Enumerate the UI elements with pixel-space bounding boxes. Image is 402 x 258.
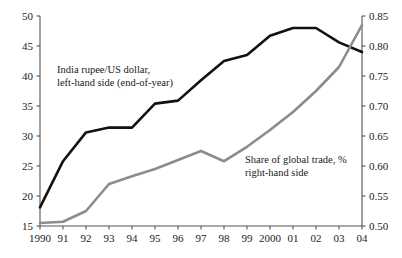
left-axis-tick-label: 40 <box>22 70 34 82</box>
x-axis-tick-label: 96 <box>173 232 185 244</box>
x-axis-tick-label: 95 <box>150 232 162 244</box>
chart-container: 1520253035404550 0.500.550.600.650.700.7… <box>0 0 402 258</box>
line-chart: 1520253035404550 0.500.550.600.650.700.7… <box>0 0 402 258</box>
x-axis-tick-label: 01 <box>288 232 299 244</box>
left-axis-tick-label: 45 <box>22 40 34 52</box>
x-axis-tick-label: 1990 <box>29 232 52 244</box>
x-axis-tick-label: 03 <box>334 232 346 244</box>
x-axis-tick-label: 93 <box>104 232 116 244</box>
left-axis-tick-label: 20 <box>22 190 34 202</box>
right-axis-tick-label: 0.75 <box>369 70 389 82</box>
chart-background <box>0 0 402 258</box>
trade-share-annotation: right-hand side <box>245 167 309 178</box>
x-axis-tick-label: 94 <box>127 232 139 244</box>
x-axis-tick-label: 2000 <box>259 232 282 244</box>
x-axis-tick-label: 99 <box>242 232 254 244</box>
rupee-series-annotation: India rupee/US dollar, <box>57 64 150 75</box>
trade-share-annotation: Share of global trade, % <box>245 154 347 165</box>
right-axis-tick-label: 0.70 <box>369 100 389 112</box>
right-axis-tick-label: 0.60 <box>369 160 389 172</box>
left-axis-tick-label: 25 <box>22 160 34 172</box>
left-axis-tick-label: 15 <box>22 220 34 232</box>
x-axis-tick-label: 04 <box>357 232 369 244</box>
right-axis-tick-label: 0.85 <box>369 10 389 22</box>
right-axis-tick-label: 0.65 <box>369 130 389 142</box>
left-axis-tick-label: 30 <box>22 130 34 142</box>
x-axis-tick-label: 91 <box>58 232 69 244</box>
left-axis-tick-label: 50 <box>22 10 34 22</box>
right-axis-tick-label: 0.50 <box>369 220 389 232</box>
x-axis-tick-label: 02 <box>311 232 322 244</box>
x-axis-tick-label: 98 <box>219 232 231 244</box>
x-axis-tick-label: 92 <box>81 232 92 244</box>
right-axis-tick-label: 0.80 <box>369 40 389 52</box>
left-axis-tick-label: 35 <box>22 100 34 112</box>
right-axis-tick-label: 0.55 <box>369 190 389 202</box>
x-axis-tick-label: 97 <box>196 232 208 244</box>
rupee-series-annotation: left-hand side (end-of-year) <box>57 77 174 89</box>
